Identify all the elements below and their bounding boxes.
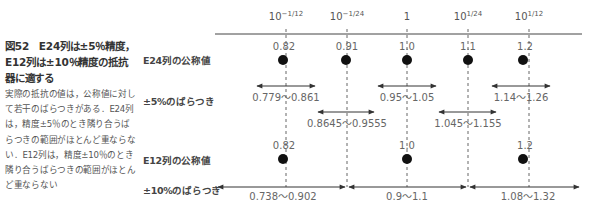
svg-text:1.2: 1.2: [517, 41, 533, 52]
svg-text:1.08～1.32: 1.08～1.32: [501, 191, 556, 202]
tolerance-diagram: 10−1/12 10−1/24 1 101/24 101/12 0.82 0.9…: [0, 0, 610, 211]
svg-text:1.2: 1.2: [517, 140, 533, 151]
e24-values: 0.82 0.91 1.0 1.1 1.2: [273, 41, 533, 52]
svg-text:0.8645～0.9555: 0.8645～0.9555: [307, 118, 387, 129]
tick-label-neg12: 10−1/12: [269, 10, 303, 22]
tick-label-pos12: 101/12: [515, 10, 543, 22]
pm10-range-labels: 0.738～0.902 0.9～1.1 1.08～1.32: [249, 191, 555, 202]
svg-text:1.045～1.155: 1.045～1.155: [434, 118, 501, 129]
svg-text:1.1: 1.1: [460, 41, 476, 52]
e24-dots: [278, 55, 528, 65]
tick-label-one: 1: [404, 11, 410, 22]
pm5-range-labels: 0.779～0.861 0.8645～0.9555 0.95～1.05 1.04…: [252, 92, 548, 129]
svg-text:0.779～0.861: 0.779～0.861: [252, 92, 319, 103]
tick-label-pos24: 101/24: [454, 10, 483, 22]
svg-text:0.82: 0.82: [273, 140, 295, 151]
svg-text:0.82: 0.82: [273, 41, 295, 52]
svg-text:0.91: 0.91: [336, 41, 358, 52]
tick-label-neg24: 10−1/24: [330, 10, 365, 22]
svg-text:1.0: 1.0: [399, 140, 415, 151]
svg-text:1.14～1.26: 1.14～1.26: [494, 92, 549, 103]
e12-dots: [278, 154, 528, 164]
svg-text:1.0: 1.0: [399, 41, 415, 52]
svg-text:0.738～0.902: 0.738～0.902: [249, 191, 316, 202]
svg-text:0.9～1.1: 0.9～1.1: [386, 191, 428, 202]
svg-text:0.95～1.05: 0.95～1.05: [380, 92, 435, 103]
e12-values: 0.82 1.0 1.2: [273, 140, 533, 151]
